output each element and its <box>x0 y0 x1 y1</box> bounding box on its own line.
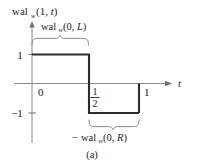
lower-brace-icon <box>89 120 139 130</box>
lower-label-wal-text: wal <box>81 132 96 143</box>
title-wal-text: wal <box>12 5 28 17</box>
figure-title: wal w (1, t) <box>12 5 58 19</box>
y-axis-arrowhead <box>29 21 34 28</box>
x-axis-label-one-half: 1 2 <box>91 86 100 109</box>
figure-caption: (a) <box>86 149 98 161</box>
fraction-denominator: 2 <box>93 98 98 109</box>
x-axis-name-t: t <box>178 77 182 89</box>
lower-label-minus-sign: − <box>72 132 78 143</box>
walsh-function-figure: wal w (1, t) wal w (0, L) <box>0 0 198 164</box>
y-axis-label-negative-one: −1 <box>11 107 23 119</box>
origin-label-zero: 0 <box>38 86 44 98</box>
figure-canvas: wal w (1, t) wal w (0, L) <box>0 0 198 164</box>
lower-label-arguments: (0, R) <box>103 132 127 144</box>
x-axis-label-one: 1 <box>144 86 150 98</box>
upper-label-wal-text: wal <box>41 21 56 32</box>
axes <box>14 21 172 143</box>
upper-segment-label: wal w (0, L) <box>41 21 87 33</box>
y-axis-label-one: 1 <box>17 49 23 61</box>
title-arguments: (1, t) <box>36 5 58 18</box>
x-axis-arrowhead <box>165 81 172 86</box>
lower-segment-label: − wal w (0, R) <box>72 132 127 144</box>
upper-brace-icon <box>32 35 89 45</box>
upper-label-arguments: (0, L) <box>63 21 87 33</box>
fraction-numerator: 1 <box>93 86 98 97</box>
